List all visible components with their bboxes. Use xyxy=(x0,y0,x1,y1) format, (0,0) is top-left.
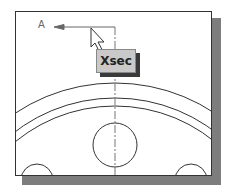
section-arrow-icon xyxy=(54,25,64,30)
drawing-canvas xyxy=(0,0,225,192)
bottom-left-hole xyxy=(21,164,53,192)
arrow-pointer-icon xyxy=(91,28,104,51)
middle-arc xyxy=(0,98,225,192)
outer-arc xyxy=(0,83,225,192)
section-label: A xyxy=(38,19,45,30)
xsec-button[interactable]: Xsec xyxy=(96,49,136,73)
bottom-right-hole xyxy=(175,164,207,192)
